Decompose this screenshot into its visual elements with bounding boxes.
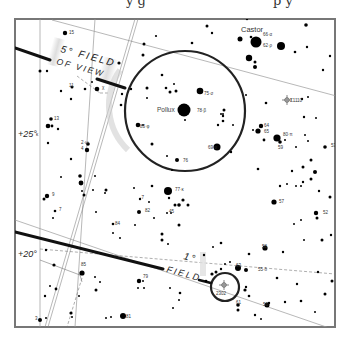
star-dot [84,88,87,91]
star-dot [166,155,168,157]
star-dot [39,70,42,73]
star-dot [295,185,297,187]
star-dot [306,46,308,48]
star-dot [70,158,72,160]
star-label: 77·κ [175,187,185,192]
star-label: 62·ρ [263,43,273,48]
star-dot [178,224,181,227]
star-dot [232,124,234,126]
star-dot [220,242,223,245]
star-label: ·7 [140,195,144,200]
star-dot [70,98,72,100]
star-dot [45,194,49,198]
star-dot [71,316,73,318]
star-dot [69,311,72,314]
star-dot [331,280,334,283]
star-dot [112,223,115,226]
star-dot [151,185,154,188]
star-dot [282,251,284,253]
star-dot [52,217,54,219]
star-dot [318,190,320,192]
star-dot [45,249,47,251]
star-label: 84 [115,221,121,226]
star-dot [211,32,213,34]
star-dot [95,211,97,213]
star-label: 2302 [216,291,227,296]
star-dot [51,125,54,128]
star-label: 83·φ [140,124,150,129]
star-dot [323,145,327,149]
star-dot [187,204,190,207]
star-label: 69·υ [208,145,218,150]
star-dot [252,129,254,131]
star-dot [230,151,232,153]
star-label: 55·δ [258,267,268,272]
star-label: 11 [69,83,74,88]
star-dot [45,317,47,319]
star-dot [212,246,214,248]
star-dot [174,204,177,207]
star-dot [99,281,101,283]
star-dot [276,277,279,280]
star-dot [302,181,304,183]
star-dot [94,175,96,177]
star-dot [164,187,172,195]
star-label: 57 [279,199,285,204]
star-dot [294,51,297,54]
star-dot [46,124,51,129]
star-dot [217,124,219,126]
star-label: 85 [81,262,87,267]
star-dot [303,239,305,241]
pollux-label: Pollux [157,106,175,113]
star-dot [315,117,317,119]
star-dot [177,203,181,207]
declination-label-plus25: +25° [18,129,37,139]
star-dot [260,318,262,320]
star-dot [79,181,84,186]
star-dot [279,185,281,187]
star-dot [92,189,94,191]
star-dot [47,142,49,144]
star-dot [161,74,164,77]
star-dot [243,288,246,291]
star-dot [253,65,257,69]
star-dot [184,119,186,121]
star-dot [284,301,286,303]
star-dot [166,212,168,214]
star-dot [215,271,218,274]
castor-label: Castor [241,25,264,34]
star-dot [330,234,332,236]
star-dot [220,113,222,115]
star-dot [44,295,46,297]
star-dot [205,280,208,283]
star-label: 64 [264,123,270,128]
star-dot [43,198,46,201]
star-dot [117,61,120,64]
star-dot [295,146,297,148]
star-dot [237,309,240,312]
star-label: 63 [236,263,242,268]
star-dot [179,292,182,295]
star-label: 79 [143,274,149,279]
star-dot [248,253,251,256]
star-dot [161,239,164,242]
star-label: 13 [54,116,60,121]
star-dot [142,280,144,282]
star-dot [257,168,260,171]
star-dot [263,139,266,142]
star-dot [105,317,107,319]
star-dot [181,198,184,201]
star-dot [314,311,316,313]
star-dot [161,233,164,236]
star-dot [112,232,114,234]
star-label: 82 [145,208,151,213]
star-dot [175,90,178,93]
star-dot [284,139,286,141]
star-dot [302,166,305,169]
star-dot [265,102,268,105]
star-dot [57,128,59,130]
star-dot [110,316,112,318]
star-dot [300,219,302,221]
star-dot [81,190,83,192]
star-dot [259,124,263,128]
